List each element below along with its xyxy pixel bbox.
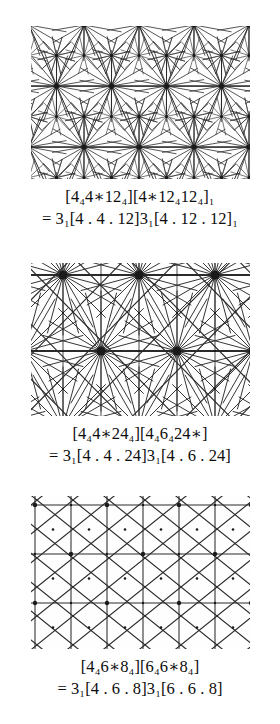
caption-equation-2: = 3₁[4 . 4 . 24]3₁[4 . 6 . 24]	[10, 445, 270, 467]
caption-bracket-2: [4₄4∗24₄][4₄6₄24∗]	[10, 416, 270, 445]
caption-equation-3: = 3₁[4 . 6 . 8]3₁[6 . 6 . 8]	[10, 678, 270, 700]
caption-bracket-3: [4₄6∗8₄][6₄6∗8₄]	[10, 649, 270, 678]
caption-equation-1: = 3₁[4 . 4 . 12]3₁[4 . 12 . 12]₁	[10, 208, 270, 230]
tiling-diagram-2	[31, 263, 250, 416]
tiling-diagram-1	[31, 26, 250, 179]
figure-caption-3: [4₄6∗8₄][6₄6∗8₄] = 3₁[4 . 6 . 8]3₁[6 . 6…	[10, 649, 270, 700]
figure-panel-3: [4₄6∗8₄][6₄6∗8₄] = 3₁[4 . 6 . 8]3₁[6 . 6…	[0, 496, 280, 700]
tiling-diagram-3	[31, 496, 250, 649]
figure-panel-2: [4₄4∗24₄][4₄6₄24∗] = 3₁[4 . 4 . 24]3₁[4 …	[0, 263, 280, 467]
figure-panel-1: [4₄4∗12₄][4∗12₄12₄]₁ = 3₁[4 . 4 . 12]3₁[…	[0, 26, 280, 230]
figure-page: [4₄4∗12₄][4∗12₄12₄]₁ = 3₁[4 . 4 . 12]3₁[…	[0, 0, 280, 724]
figure-caption-1: [4₄4∗12₄][4∗12₄12₄]₁ = 3₁[4 . 4 . 12]3₁[…	[10, 179, 270, 230]
caption-bracket-1: [4₄4∗12₄][4∗12₄12₄]₁	[10, 179, 270, 208]
figure-caption-2: [4₄4∗24₄][4₄6₄24∗] = 3₁[4 . 4 . 24]3₁[4 …	[10, 416, 270, 467]
